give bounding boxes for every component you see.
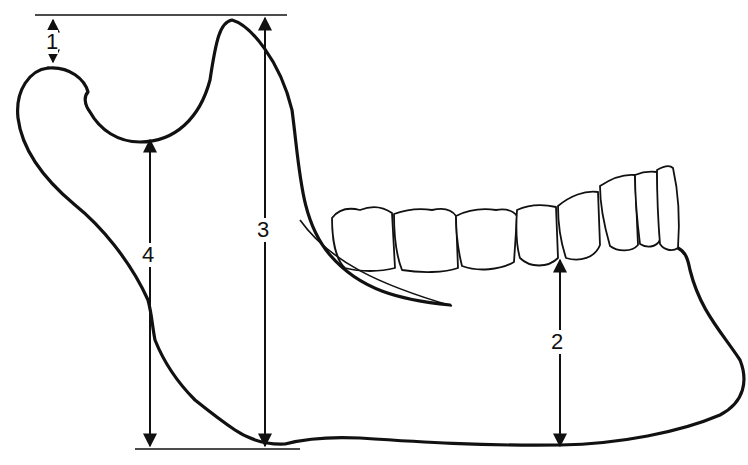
measurement-label-2: 2 bbox=[551, 330, 563, 354]
measurement-label-4: 4 bbox=[142, 243, 154, 267]
measurement-label-3: 3 bbox=[257, 218, 269, 242]
measurement-label-1: 1 bbox=[46, 30, 58, 54]
teeth-row bbox=[332, 166, 679, 272]
mandible-diagram bbox=[0, 0, 748, 465]
